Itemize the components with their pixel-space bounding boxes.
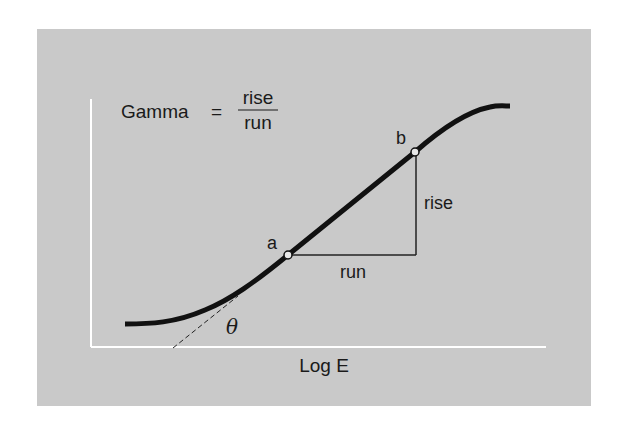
point-a-label: a xyxy=(267,233,278,253)
formula-lhs: Gamma xyxy=(121,101,189,122)
x-axis-label: Log E xyxy=(299,355,349,376)
point-b-label: b xyxy=(396,128,406,148)
characteristic-curve-diagram: Gamma = rise run a b rise run θ Log E xyxy=(0,0,617,421)
point-a-marker xyxy=(284,251,292,259)
point-b-marker xyxy=(411,148,419,156)
formula-numerator: rise xyxy=(243,87,274,108)
characteristic-curve xyxy=(125,106,510,324)
theta-angle-label: θ xyxy=(226,315,238,339)
run-label: run xyxy=(340,262,366,282)
formula-equals: = xyxy=(211,101,222,122)
rise-label: rise xyxy=(424,193,453,213)
formula-denominator: run xyxy=(244,112,271,133)
